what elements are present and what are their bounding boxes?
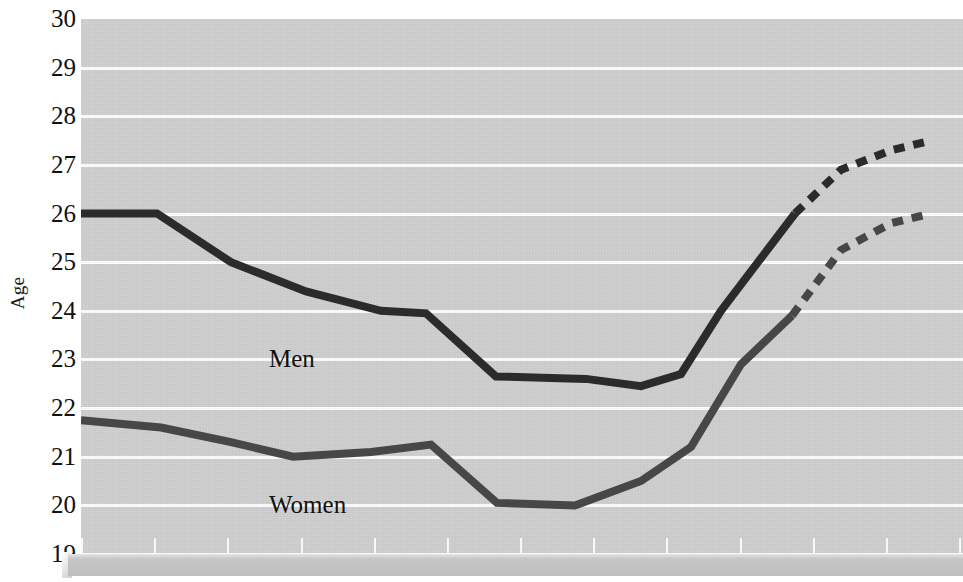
y-tick-label: 22 [32,395,76,420]
y-tick-label: 27 [32,152,76,177]
series-line-women-solid [81,316,792,506]
series-lines [81,19,963,554]
series-line-men-dashed [795,141,931,214]
y-tick-label: 23 [32,346,76,371]
y-tick-label: 21 [32,444,76,469]
axis-base-strip [68,554,963,576]
y-tick-label: 25 [32,249,76,274]
series-label-men: Men [269,345,315,373]
y-tick-label: 26 [32,201,76,226]
y-axis-title: Age [7,263,29,323]
y-tick-label: 30 [32,6,76,31]
age-at-first-marriage-chart: Age 302928272625242322212019 Men Women [0,0,963,582]
y-tick-label: 28 [32,103,76,128]
y-tick-label: 24 [32,298,76,323]
series-line-men-solid [81,214,795,387]
series-line-women-dashed [792,214,931,316]
series-label-women: Women [269,491,346,519]
y-axis-tick-labels: 302928272625242322212019 [28,0,76,582]
plot-area [81,19,963,554]
y-tick-label: 20 [32,492,76,517]
y-tick-label: 29 [32,55,76,80]
